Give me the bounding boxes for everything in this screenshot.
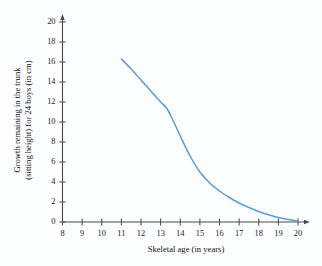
chart-figure: 02468101214161820 8910111213141516171819…	[0, 0, 322, 266]
y-tick-label: 2	[51, 197, 55, 206]
x-axis	[63, 220, 311, 224]
y-axis-arrow-icon	[60, 14, 64, 20]
x-tick-label: 19	[274, 229, 282, 238]
x-tick-label: 12	[137, 229, 145, 238]
x-tick-label: 8	[60, 229, 64, 238]
y-tick-label: 18	[47, 37, 55, 46]
x-axis-title: Skeletal age (in years)	[148, 244, 225, 254]
y-axis-title-line1: Growth remaining in the trunk	[12, 67, 22, 173]
y-tick-label: 10	[47, 117, 55, 126]
x-tick-label: 9	[80, 229, 84, 238]
x-tick-label: 18	[255, 229, 263, 238]
x-tick-label: 13	[156, 229, 164, 238]
x-tick-label: 11	[117, 229, 125, 238]
y-tick-label: 12	[47, 97, 55, 106]
y-tick-label: 6	[51, 157, 55, 166]
data-series-curve	[121, 59, 298, 221]
y-axis-title-line2: (sitting height) for 24 boys (in cm)	[23, 60, 33, 179]
y-tick-label: 8	[51, 137, 55, 146]
x-tick-label: 20	[294, 229, 302, 238]
y-tick-label: 20	[47, 17, 55, 26]
x-tick-label: 17	[235, 229, 243, 238]
y-tick-label: 16	[47, 57, 55, 66]
y-tick-label: 0	[51, 217, 55, 226]
y-tick-label: 14	[47, 77, 56, 86]
x-tick-label: 10	[98, 229, 106, 238]
x-tick-label: 15	[196, 229, 204, 238]
chart-svg: 02468101214161820 8910111213141516171819…	[0, 0, 322, 266]
x-tick-label: 14	[176, 229, 185, 238]
x-axis-arrow-icon	[304, 220, 310, 224]
y-axis	[60, 14, 64, 222]
y-tick-label: 4	[51, 177, 56, 186]
x-tick-label: 16	[215, 229, 223, 238]
